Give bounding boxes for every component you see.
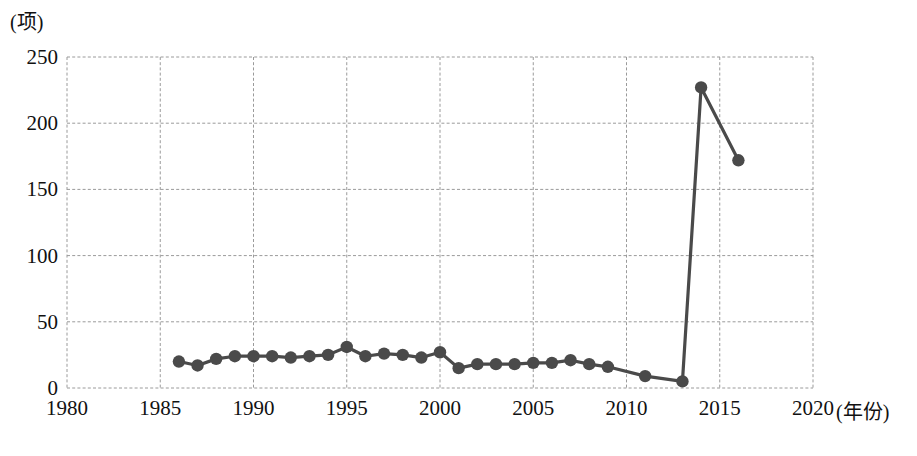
y-axis-tick-label: 100: [0, 243, 58, 268]
y-axis-tick-label: 250: [0, 45, 58, 70]
data-point-marker: [191, 359, 203, 371]
data-point-marker: [285, 351, 297, 363]
x-axis-tick-label: 2005: [512, 396, 554, 421]
data-point-marker: [229, 350, 241, 362]
data-point-marker: [471, 358, 483, 370]
data-point-marker: [546, 357, 558, 369]
data-point-marker: [266, 350, 278, 362]
data-point-marker: [247, 350, 259, 362]
data-point-marker: [322, 349, 334, 361]
data-point-marker: [564, 354, 576, 366]
data-point-marker: [732, 154, 744, 166]
x-axis-tick-label: 1985: [139, 396, 181, 421]
data-point-marker: [583, 358, 595, 370]
x-axis-unit-label: (年份): [836, 396, 889, 425]
data-point-marker: [602, 361, 614, 373]
line-chart: (项) 250200150100500 19801985199019952000…: [0, 0, 917, 456]
x-axis-tick-label: 2020: [792, 396, 834, 421]
x-axis-tick-label: 2015: [699, 396, 741, 421]
data-point-marker: [210, 353, 222, 365]
data-point-marker: [452, 362, 464, 374]
plot-area: [0, 0, 917, 456]
data-point-marker: [695, 81, 707, 93]
data-point-marker: [359, 350, 371, 362]
x-axis-tick-label: 1995: [326, 396, 368, 421]
data-point-marker: [508, 358, 520, 370]
data-line: [179, 87, 739, 381]
y-axis-tick-label: 150: [0, 177, 58, 202]
data-point-marker: [527, 357, 539, 369]
data-point-marker: [639, 370, 651, 382]
data-point-marker: [173, 355, 185, 367]
y-axis-tick-label: 50: [0, 309, 58, 334]
figure-caption-clipped: [0, 444, 917, 456]
data-point-marker: [397, 349, 409, 361]
x-axis-tick-label: 2000: [419, 396, 461, 421]
x-axis-tick-label: 1990: [233, 396, 275, 421]
data-point-marker: [378, 347, 390, 359]
data-point-marker: [676, 375, 688, 387]
data-point-marker: [434, 346, 446, 358]
x-axis-tick-label: 1980: [46, 396, 88, 421]
data-point-marker: [341, 341, 353, 353]
data-point-marker: [490, 358, 502, 370]
data-point-marker: [303, 350, 315, 362]
data-point-marker: [415, 351, 427, 363]
x-axis-tick-label: 2010: [606, 396, 648, 421]
y-axis-tick-label: 200: [0, 111, 58, 136]
